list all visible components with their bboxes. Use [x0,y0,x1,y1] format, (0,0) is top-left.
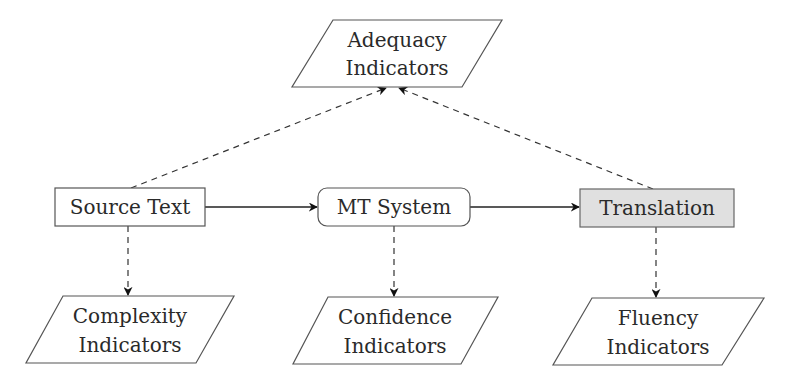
node-confidence-indicators: Confidence Indicators [293,297,498,364]
node-label-line1: Adequacy [346,28,447,52]
node-source-text: Source Text [55,188,205,226]
node-label-line2: Indicators [343,334,446,358]
edge-translation-to-adequacy [399,88,653,189]
node-label-line2: Indicators [345,56,448,80]
node-adequacy-indicators: Adequacy Indicators [292,20,502,87]
node-mt-system: MT System [318,188,470,226]
node-label-line1: Fluency [618,306,699,330]
node-label-line1: Confidence [338,305,452,329]
node-label-line1: Complexity [73,304,188,328]
node-label-line2: Indicators [606,335,709,359]
node-label: Source Text [70,195,191,219]
mt-quality-diagram: Adequacy Indicators Source Text MT Syste… [0,0,792,386]
node-translation: Translation [580,189,734,227]
node-fluency-indicators: Fluency Indicators [553,298,764,365]
node-label: MT System [337,195,451,219]
node-label-line2: Indicators [78,333,181,357]
node-label: Translation [599,196,715,220]
edge-source-to-adequacy [131,88,386,188]
node-complexity-indicators: Complexity Indicators [26,296,234,363]
